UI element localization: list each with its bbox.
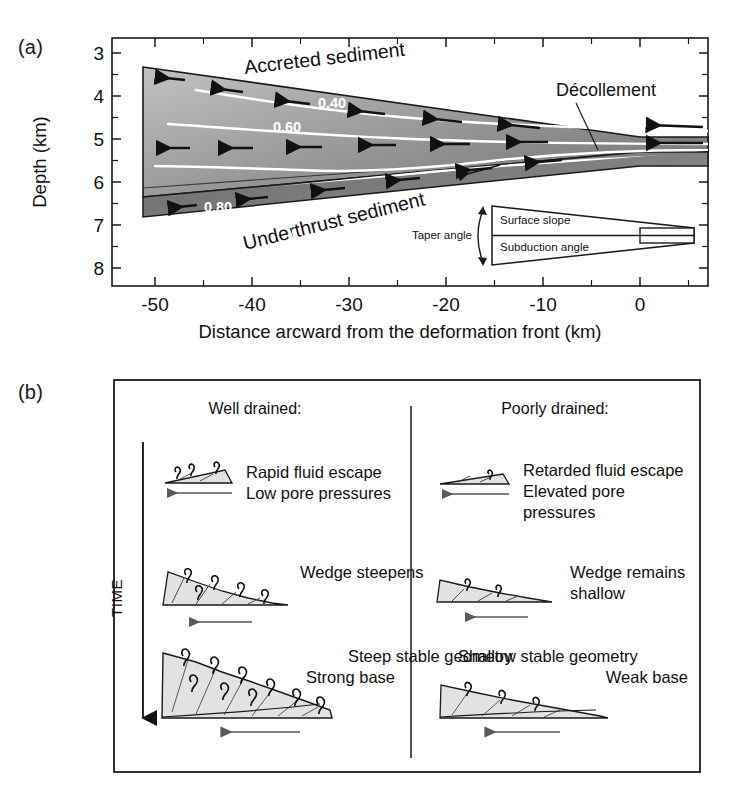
row3-well-drained-wedge xyxy=(162,649,332,732)
x-tick-minus20: -20 xyxy=(432,294,459,315)
x-tick-0: 0 xyxy=(635,294,646,315)
panel-b-conceptual-model: Well drained: Poorly drained: TIME xyxy=(0,360,737,799)
row1-well-text-line1: Rapid fluid escape xyxy=(246,463,382,481)
x-tick-minus40: -40 xyxy=(238,294,265,315)
row1-poorly-text-line1: Retarded fluid escape xyxy=(523,461,684,479)
x-tick-minus50: -50 xyxy=(141,294,168,315)
y-tick-7: 7 xyxy=(93,215,104,236)
row3-poorly-text-line2: Weak base xyxy=(606,668,688,686)
column-title-poorly-drained: Poorly drained: xyxy=(501,400,609,417)
taper-angle-inset: Surface slope Subduction angle Taper ang… xyxy=(412,206,694,266)
inset-surface-slope-label: Surface slope xyxy=(500,214,570,226)
row2-poorly-drained-wedge xyxy=(437,579,552,617)
row2-poorly-text-line2: shallow xyxy=(570,584,625,602)
y-tick-8: 8 xyxy=(93,258,104,279)
row2-poorly-text-line1: Wedge remains xyxy=(570,563,685,581)
column-title-well-drained: Well drained: xyxy=(208,400,301,417)
panel-a-cross-section: 3 4 5 6 7 8 -50 -40 -30 -20 -10 0 Distan… xyxy=(0,0,737,360)
panel-a-y-tick-labels: 3 4 5 6 7 8 xyxy=(93,43,104,279)
panel-a-x-axis-title: Distance arcward from the deformation fr… xyxy=(198,321,601,342)
figure-root: (a) (b) xyxy=(0,0,737,799)
row2-well-drained-wedge xyxy=(163,569,288,622)
inset-subduction-angle-label: Subduction angle xyxy=(500,241,589,253)
decollement-label: Décollement xyxy=(556,80,656,100)
row3-well-text-line2: Strong base xyxy=(306,668,395,686)
taper-angle-arrow xyxy=(478,206,487,266)
row2-well-text-line1: Wedge steepens xyxy=(300,563,424,581)
time-axis-label: TIME xyxy=(108,579,125,617)
y-tick-5: 5 xyxy=(93,129,104,150)
row1-poorly-text-line3: pressures xyxy=(523,503,595,521)
row1-poorly-text-line2: Elevated pore xyxy=(523,482,625,500)
y-tick-3: 3 xyxy=(93,43,104,64)
contour-label-060: 0.60 xyxy=(273,119,301,135)
contour-label-040: 0.40 xyxy=(318,95,346,111)
panel-a-y-axis-title: Depth (km) xyxy=(29,116,50,208)
inset-taper-angle-label: Taper angle xyxy=(412,229,472,241)
row1-poorly-drained-wedge xyxy=(440,470,509,494)
panel-a-x-tick-labels: -50 -40 -30 -20 -10 0 xyxy=(141,294,645,315)
accreted-sediment-label: Accreted sediment xyxy=(243,38,407,78)
row1-well-text-line2: Low pore pressures xyxy=(246,484,391,502)
y-tick-4: 4 xyxy=(93,86,104,107)
x-tick-minus30: -30 xyxy=(335,294,362,315)
row3-poorly-text-line1: Shallow stable geometry xyxy=(458,647,639,665)
row1-well-drained-wedge xyxy=(165,462,232,493)
x-tick-minus10: -10 xyxy=(529,294,556,315)
row3-poorly-drained-wedge xyxy=(440,682,608,732)
y-tick-6: 6 xyxy=(93,172,104,193)
contour-label-080: 0.80 xyxy=(204,199,232,215)
